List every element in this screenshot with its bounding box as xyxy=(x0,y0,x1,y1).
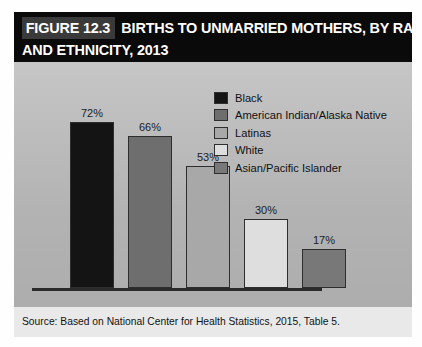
bar-value-label: 72% xyxy=(62,107,122,119)
legend-swatch-icon xyxy=(214,109,228,121)
figure-title-bar: FIGURE 12.3BIRTHS TO UNMARRIED MOTHERS, … xyxy=(14,12,412,62)
bar-rect xyxy=(128,136,172,288)
legend-label: Asian/Pacific Islander xyxy=(235,162,342,174)
legend-swatch-icon xyxy=(214,127,228,139)
legend-swatch-icon xyxy=(214,144,228,156)
bar-rect xyxy=(70,122,114,288)
legend-label: Latinas xyxy=(235,127,271,139)
legend-item-5: Asian/Pacific Islander xyxy=(214,159,392,177)
bar-1: 72% xyxy=(70,62,114,288)
bar-value-label: 17% xyxy=(294,234,354,246)
bar-rect xyxy=(186,166,230,288)
legend-swatch-icon xyxy=(214,92,228,104)
legend-item-4: White xyxy=(214,142,392,160)
figure-title-line-2: AND ETHNICITY, 2013 xyxy=(22,39,377,60)
plot-area: 72%66%53%30%17% BlackAmerican Indian/Ala… xyxy=(14,62,412,307)
legend-item-3: Latinas xyxy=(214,124,392,142)
bar-value-label: 66% xyxy=(120,121,180,133)
legend-swatch-icon xyxy=(214,162,228,174)
figure-number-tag: FIGURE 12.3 xyxy=(22,17,115,39)
legend-label: White xyxy=(235,144,264,156)
figure-title-text-1: BIRTHS TO UNMARRIED MOTHERS, BY RACE xyxy=(121,19,412,36)
figure-title-line-1: FIGURE 12.3BIRTHS TO UNMARRIED MOTHERS, … xyxy=(22,17,377,39)
figure-panel: FIGURE 12.3BIRTHS TO UNMARRIED MOTHERS, … xyxy=(14,12,412,337)
legend-item-1: Black xyxy=(214,89,392,107)
source-band: Source: Based on National Center for Hea… xyxy=(14,307,412,337)
legend-label: American Indian/Alaska Native xyxy=(235,109,387,121)
bar-rect xyxy=(244,219,288,288)
x-axis-line xyxy=(32,288,322,291)
bar-2: 66% xyxy=(128,62,172,288)
source-note: Source: Based on National Center for Hea… xyxy=(22,315,340,327)
chart-legend: BlackAmerican Indian/Alaska NativeLatina… xyxy=(214,89,392,177)
bar-rect xyxy=(302,249,346,288)
figure-container: FIGURE 12.3BIRTHS TO UNMARRIED MOTHERS, … xyxy=(0,0,422,347)
legend-label: Black xyxy=(235,92,262,104)
bar-value-label: 30% xyxy=(236,204,296,216)
legend-item-2: American Indian/Alaska Native xyxy=(214,107,392,125)
